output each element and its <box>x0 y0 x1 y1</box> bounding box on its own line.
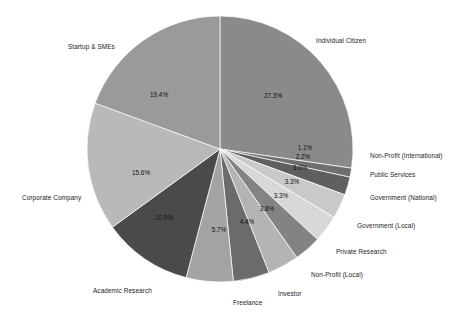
pie-category-label: Non-Profit (Local) <box>311 272 363 278</box>
pie-value-label: 3.8% <box>260 206 275 212</box>
pie-category-label: Startup & SMEs <box>68 44 115 50</box>
pie-category-label: Private Research <box>336 249 387 255</box>
pie-value-label: 15.6% <box>132 170 150 176</box>
pie-value-label: 27.3% <box>264 93 282 99</box>
pie-category-label: Government (National) <box>370 195 437 201</box>
pie-category-label: Academic Research <box>93 288 152 294</box>
pie-value-label: 19.4% <box>150 92 168 98</box>
pie-category-label: Freelance <box>233 300 262 306</box>
pie-slice-group <box>87 16 353 282</box>
pie-value-label: 3.3% <box>274 193 289 199</box>
pie-value-label: 5.7% <box>212 227 227 233</box>
pie-value-label: 3.3% <box>285 179 300 185</box>
pie-chart-figure: Individual CitizenNon-Profit (Internatio… <box>0 0 471 313</box>
pie-value-label: 10.9% <box>155 215 173 221</box>
pie-category-label: Government (Local) <box>357 223 415 229</box>
pie-value-label: 2.2% <box>296 154 311 160</box>
pie-value-label: 4.4% <box>240 219 255 225</box>
pie-category-label: Public Services <box>370 172 415 178</box>
pie-category-label: Corporate Company <box>22 195 81 201</box>
pie-category-label: Non-Profit (International) <box>370 153 443 159</box>
pie-value-label: 1.1% <box>298 145 313 151</box>
pie-value-label: 3.0% <box>293 165 308 171</box>
pie-category-label: Individual Citizen <box>316 38 366 44</box>
pie-category-label: Investor <box>278 291 302 297</box>
